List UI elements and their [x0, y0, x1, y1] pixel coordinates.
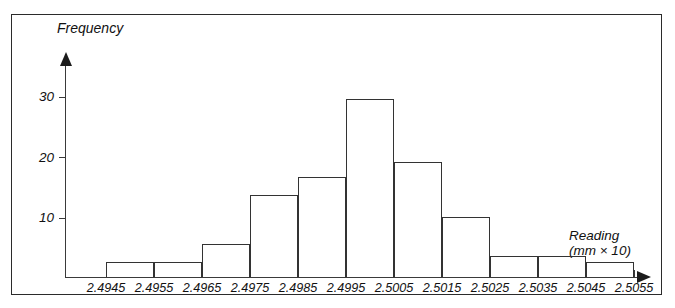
y-axis-title: Frequency [57, 20, 123, 36]
y-tick-mark [59, 97, 66, 98]
y-tick-mark [59, 157, 66, 158]
histogram-bar [154, 262, 202, 277]
x-tick-label: 2.5055 [599, 281, 669, 295]
histogram-bar [394, 162, 442, 278]
histogram-bar [298, 177, 346, 277]
x-axis-line [65, 277, 638, 278]
histogram-bar [538, 256, 586, 277]
plot-area: Frequency Reading (mm × 10) 10 20 30 2.4… [0, 0, 675, 308]
x-tick-mark [634, 270, 635, 278]
y-tick-mark [59, 218, 66, 219]
y-tick-label: 20 [14, 150, 54, 165]
x-axis-title-line1: Reading [569, 228, 631, 243]
histogram-bar [442, 217, 490, 278]
histogram-bar [202, 244, 250, 277]
y-tick-label: 10 [14, 210, 54, 225]
y-axis-arrow-icon [60, 52, 72, 66]
histogram-bar [346, 99, 394, 278]
y-tick-label: 30 [14, 89, 54, 104]
histogram-bar [586, 262, 634, 277]
histogram-bar [490, 256, 538, 277]
histogram-figure: Frequency Reading (mm × 10) 10 20 30 2.4… [0, 0, 675, 308]
histogram-bar [106, 262, 154, 277]
x-axis-title: Reading (mm × 10) [569, 228, 631, 258]
histogram-bar [250, 195, 298, 277]
